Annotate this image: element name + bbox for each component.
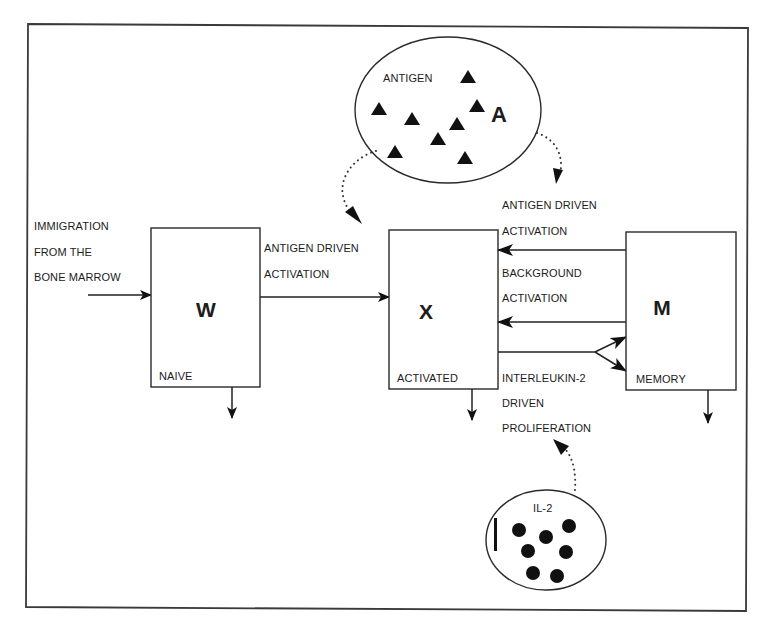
il2-proliferation-label-line-2: DRIVEN	[502, 397, 544, 409]
antigen-pool: ANTIGEN A	[355, 37, 541, 183]
antigen-to-activated-dotted-arrow	[342, 151, 376, 218]
il2-to-proliferation-dotted-arrow	[566, 450, 575, 490]
dotted-arrowhead-icon	[553, 168, 563, 184]
memory-label: MEMORY	[636, 373, 686, 385]
il2-dot-icon	[559, 545, 573, 559]
memory-box	[626, 232, 736, 390]
naive-to-activated-label-line-1: ANTIGEN DRIVEN	[264, 242, 359, 254]
il2-pool: IL-2	[486, 490, 606, 590]
antigen-pool-label: ANTIGEN	[383, 72, 433, 84]
il2-bar-mark	[494, 518, 497, 551]
immigration-label-line-2: FROM THE	[34, 246, 92, 258]
il2-proliferation-label-line-1: INTERLEUKIN-2	[502, 372, 586, 384]
memory-antigen-activation-label-line-2: ACTIVATION	[502, 225, 567, 237]
activated-symbol: X	[419, 300, 433, 323]
compartment-memory: M MEMORY	[626, 232, 736, 423]
il2-dot-icon	[550, 569, 564, 583]
memory-antigen-activation-label-line-1: ANTIGEN DRIVEN	[502, 199, 597, 211]
il2-proliferation-flow: INTERLEUKIN-2 DRIVEN PROLIFERATION	[498, 337, 626, 434]
memory-to-activated-flows: ANTIGEN DRIVEN ACTIVATION BACKGROUND ACT…	[498, 199, 626, 322]
dotted-arrowhead-icon	[345, 206, 362, 224]
il2-dot-icon	[521, 544, 535, 558]
proliferation-branch-down-arrow	[595, 352, 626, 371]
activated-box	[389, 230, 498, 389]
compartment-activated: X ACTIVATED	[389, 230, 498, 420]
activated-label: ACTIVATED	[397, 372, 458, 384]
antigen-symbol: A	[491, 102, 507, 127]
il2-dot-icon	[539, 530, 553, 544]
naive-label: NAIVE	[159, 370, 193, 382]
il2-pool-label: IL-2	[533, 502, 552, 514]
proliferation-branch-up-arrow	[595, 337, 626, 352]
il2-dot-icon	[526, 566, 540, 580]
il2-proliferation-label-line-3: PROLIFERATION	[502, 422, 591, 434]
dotted-arrowhead-icon	[553, 439, 569, 455]
memory-symbol: M	[653, 296, 671, 319]
immigration-label-line-3: BONE MARROW	[34, 271, 121, 283]
il2-dot-icon	[512, 523, 526, 537]
t-cell-compartment-diagram: ANTIGEN A IMMIGRATION FROM THE BONE MARR…	[0, 0, 769, 628]
immigration-flow: IMMIGRATION FROM THE BONE MARROW	[34, 220, 151, 295]
naive-to-activated-label-line-2: ACTIVATION	[264, 268, 329, 280]
naive-to-activated-flow: ANTIGEN DRIVEN ACTIVATION	[260, 242, 389, 297]
compartment-naive: W NAIVE	[151, 228, 260, 418]
il2-dot-icon	[562, 519, 576, 533]
immigration-label-line-1: IMMIGRATION	[34, 220, 109, 232]
memory-background-activation-label-line-2: ACTIVATION	[502, 292, 567, 304]
naive-symbol: W	[196, 298, 216, 321]
memory-background-activation-label-line-1: BACKGROUND	[502, 267, 582, 279]
